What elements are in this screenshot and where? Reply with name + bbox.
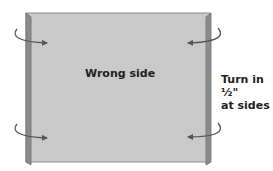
fabric-panel	[26, 13, 210, 162]
side-note-line2: at sides	[221, 99, 273, 112]
left-fold-strip	[26, 13, 31, 165]
panel-label: Wrong side	[85, 67, 155, 80]
side-note: Turn in ½" at sides	[221, 73, 273, 112]
side-note-line1: Turn in ½"	[221, 73, 273, 99]
right-fold-strip	[206, 13, 211, 165]
